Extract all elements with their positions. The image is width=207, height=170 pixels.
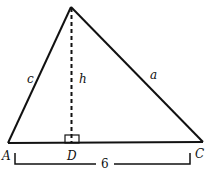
side-a <box>71 7 203 142</box>
label-c: c <box>27 72 34 86</box>
label-D: D <box>66 149 77 163</box>
base-length-label: 6 <box>101 157 109 170</box>
label-h: h <box>79 72 87 86</box>
dimension-bracket-left <box>15 153 96 164</box>
triangle-diagram: c h a A D C 6 <box>0 0 207 170</box>
side-c <box>8 7 71 143</box>
label-C: C <box>195 147 204 161</box>
label-a: a <box>150 68 157 82</box>
side-base-AC <box>8 142 203 143</box>
label-A: A <box>1 149 11 163</box>
dimension-bracket-right <box>114 153 190 164</box>
